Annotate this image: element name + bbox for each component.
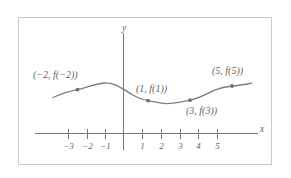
x-tick-label-5: 5 — [215, 141, 220, 151]
function-graph-figure: −3 −2 −1 1 2 3 4 5 x y (−2, f(−2)) (1, f… — [0, 0, 291, 178]
point-label-1: (1, f(1)) — [136, 83, 168, 95]
x-tick-label-neg1: −1 — [100, 141, 111, 151]
curve-point-1 — [146, 99, 150, 103]
x-tick-label-3: 3 — [177, 141, 183, 151]
x-tick-label-1: 1 — [140, 141, 145, 151]
x-tick-label-2: 2 — [159, 141, 164, 151]
x-tick-label-neg2: −2 — [82, 141, 93, 151]
curve-point-3 — [188, 98, 192, 102]
y-axis-label: y — [121, 23, 127, 33]
curve-point-5 — [230, 84, 234, 88]
x-axis-label: x — [259, 124, 265, 134]
x-tick-label-neg3: −3 — [63, 141, 74, 151]
plot-canvas: −3 −2 −1 1 2 3 4 5 x y (−2, f(−2)) (1, f… — [0, 0, 291, 178]
point-label-5: (5, f(5)) — [212, 65, 244, 77]
curve-point-neg2 — [76, 88, 80, 92]
point-label-3: (3, f(3)) — [186, 105, 218, 117]
point-label-neg2: (−2, f(−2)) — [33, 69, 78, 81]
x-tick-label-4: 4 — [196, 141, 201, 151]
